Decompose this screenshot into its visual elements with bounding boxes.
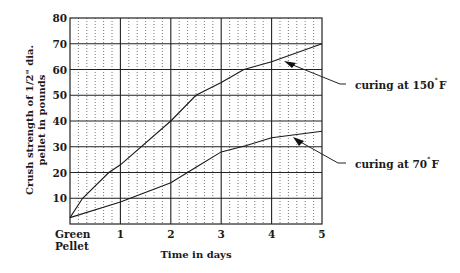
- crush-strength-chart: 1020304050607080 Green Pellet 12345 Time…: [0, 0, 460, 273]
- annotation-label-70f: curing at 70°F: [355, 155, 440, 170]
- annotation-150f: curing at 150°F: [284, 61, 447, 91]
- y-tick-label: 60: [52, 64, 67, 76]
- x-axis-label: Time in days: [160, 249, 231, 260]
- y-axis-label-line2: pellet in pounds: [36, 74, 47, 165]
- annotation-70f: curing at 70°F: [293, 137, 440, 170]
- x-tick-green-line1: Green: [55, 228, 91, 240]
- y-tick-label: 80: [52, 12, 67, 24]
- y-tick-label: 40: [52, 115, 67, 127]
- y-tick-label: 30: [52, 141, 67, 153]
- y-tick-label: 20: [52, 167, 67, 179]
- x-tick-label: 4: [268, 228, 275, 240]
- annotation-label-150f: curing at 150°F: [355, 76, 447, 91]
- y-axis-ticks: 1020304050607080: [52, 12, 67, 204]
- arrowhead-150f-icon: [284, 61, 296, 68]
- arrowhead-70f-icon: [293, 137, 304, 146]
- y-axis-label-line1: Crush strength of 1/2" dia.: [24, 45, 35, 195]
- y-axis-label: Crush strength of 1/2" dia. pellet in po…: [24, 45, 47, 195]
- y-tick-label: 50: [52, 89, 67, 101]
- x-tick-label: 3: [218, 228, 225, 240]
- x-tick-label: 5: [318, 228, 325, 240]
- x-tick-label: 1: [117, 228, 124, 240]
- y-tick-label: 10: [52, 192, 67, 204]
- x-tick-green-line2: Pellet: [55, 240, 89, 252]
- x-tick-label: 2: [167, 228, 174, 240]
- leader-line-150f: [288, 63, 346, 84]
- y-tick-label: 70: [52, 38, 67, 50]
